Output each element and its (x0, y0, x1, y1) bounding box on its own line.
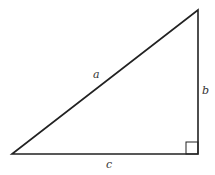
vertical-side-label: b (202, 84, 209, 97)
base-label: c (106, 158, 112, 171)
right-angle-marker (186, 142, 198, 154)
triangle (12, 10, 198, 154)
hypotenuse-label: a (93, 68, 100, 81)
right-triangle-diagram: a b c (0, 0, 215, 175)
